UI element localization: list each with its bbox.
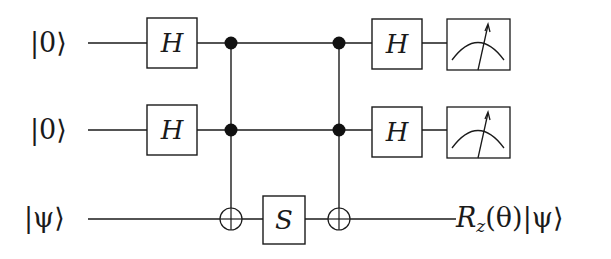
svg-text:S: S bbox=[275, 205, 293, 235]
s-gate-q2: S bbox=[263, 196, 305, 244]
h-gate-q0-col1: H bbox=[147, 18, 197, 68]
output-rotation-subscript: z bbox=[476, 216, 485, 236]
control-dot-q0-toffoli2 bbox=[333, 37, 346, 50]
control-dot-q0-toffoli1 bbox=[225, 37, 238, 50]
output-state-ket: |ψ⟩ bbox=[523, 202, 564, 233]
output-rotation-angle: (θ) bbox=[485, 202, 522, 233]
measurement-meter-icon-q0 bbox=[447, 19, 510, 70]
svg-text:H: H bbox=[160, 115, 185, 145]
svg-text:H: H bbox=[385, 29, 410, 59]
output-rotation-symbol: R bbox=[456, 202, 476, 233]
h-gate-q1-col1: H bbox=[147, 105, 197, 155]
svg-text:H: H bbox=[160, 28, 185, 58]
control-dot-q1-toffoli2 bbox=[333, 124, 346, 137]
control-dot-q1-toffoli1 bbox=[225, 124, 238, 137]
target-xor-q2-toffoli1 bbox=[220, 208, 242, 230]
svg-text:H: H bbox=[385, 117, 410, 147]
measurement-meter-icon-q1 bbox=[447, 107, 510, 158]
qubit-2-output-label: Rz(θ)|ψ⟩ bbox=[456, 204, 563, 235]
h-gate-q0-col2: H bbox=[372, 19, 422, 69]
h-gate-q1-col2: H bbox=[372, 107, 422, 157]
target-xor-q2-toffoli2 bbox=[328, 208, 350, 230]
